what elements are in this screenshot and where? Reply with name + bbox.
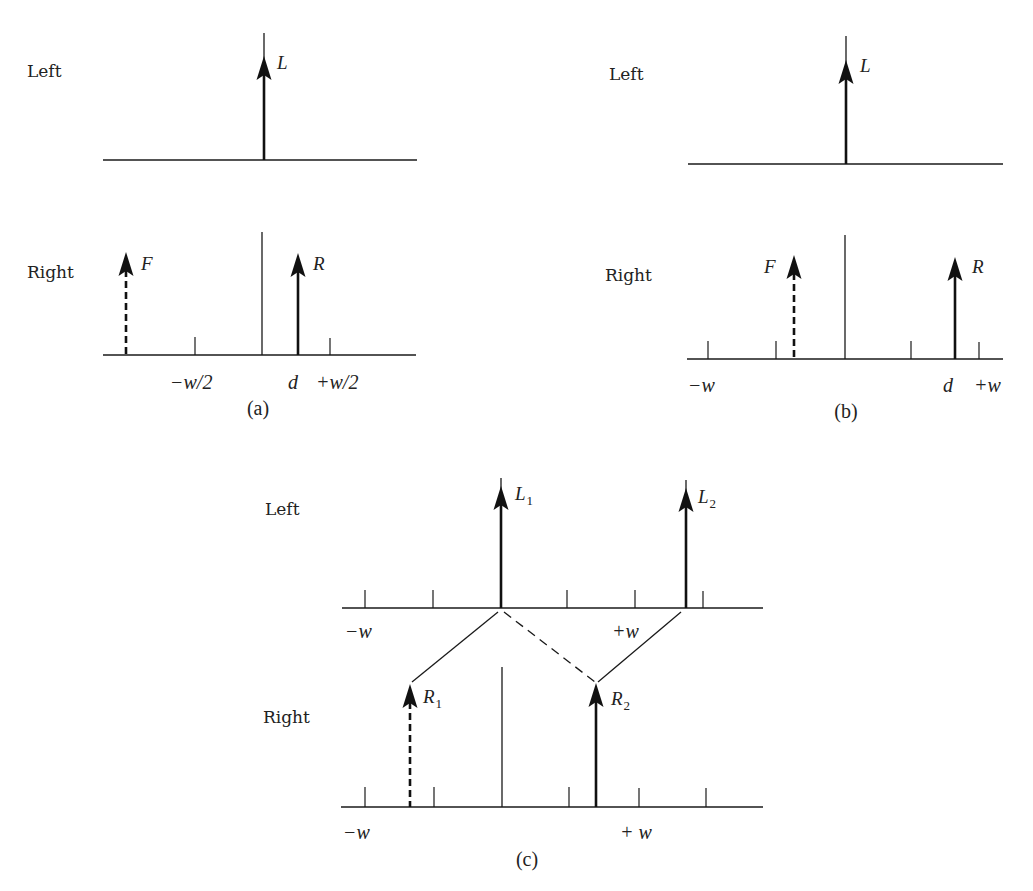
arrow-label-R: R [312, 253, 325, 274]
row-label-right: Right [605, 265, 652, 285]
axis-label: +w [974, 374, 1001, 396]
feature-arrow-L1: L1 [494, 478, 534, 608]
axis-label: +w [612, 620, 639, 642]
panel-b: LeftLRightFR−wd+w(b) [605, 36, 1003, 423]
axis-label: + w [620, 821, 652, 843]
panel-c-left-row: LeftL1L2−w+w [265, 478, 763, 642]
feature-arrow-L: L [839, 36, 871, 164]
feature-arrow-R1: R1 [403, 684, 443, 807]
panel-b-right-row: RightFR−wd+w [605, 235, 1003, 396]
feature-arrow-R: R [291, 253, 326, 355]
row-label-right: Right [27, 262, 74, 282]
axis-label: +w/2 [316, 371, 358, 393]
arrow-label-R1: R1 [422, 686, 442, 711]
panel-c-right-row: RightR1R2−w+ w [263, 667, 763, 843]
arrow-label-L1: L1 [514, 483, 533, 508]
row-label-left: Left [609, 64, 644, 84]
row-label-right: Right [263, 707, 310, 727]
arrow-label-L: L [859, 55, 871, 76]
panel-caption: (b) [834, 400, 857, 423]
panel-a-right-row: RightFR−w/2d+w/2 [27, 232, 416, 393]
panel-caption: (c) [516, 848, 538, 871]
arrow-label-L2: L2 [697, 486, 716, 511]
feature-arrow-L: L [257, 33, 288, 160]
feature-arrow-L2: L2 [679, 480, 717, 608]
feature-arrow-F: F [763, 255, 802, 359]
match-line-L2-to-R2 [598, 612, 681, 682]
axis-label: −w [343, 821, 370, 843]
arrow-label-F: F [140, 253, 153, 274]
feature-arrow-F: F [119, 252, 154, 355]
arrow-label-L: L [276, 52, 288, 73]
feature-arrow-R2: R2 [589, 683, 631, 807]
arrow-label-R2: R2 [610, 688, 630, 713]
stereo-correspondence-figure: LeftLRightFR−w/2d+w/2(a)LeftLRightFR−wd+… [0, 0, 1033, 891]
match-line-L1-to-R1 [412, 612, 498, 682]
panel-b-left-row: LeftL [609, 36, 1003, 164]
panel-c: LeftL1L2−w+wRightR1R2−w+ w(c) [263, 478, 763, 871]
axis-label: −w/2 [170, 371, 212, 393]
panel-caption: (a) [247, 397, 269, 420]
arrow-label-F: F [763, 256, 776, 277]
axis-label: −w [688, 374, 715, 396]
panel-a: LeftLRightFR−w/2d+w/2(a) [27, 33, 417, 420]
axis-label: −w [345, 620, 372, 642]
axis-label: d [288, 371, 299, 393]
panel-a-left-row: LeftL [27, 33, 417, 160]
match-line-L1-to-R2 [504, 612, 595, 682]
arrow-label-R: R [971, 256, 984, 277]
row-label-left: Left [265, 499, 300, 519]
row-label-left: Left [27, 61, 62, 81]
axis-label: d [943, 374, 954, 396]
